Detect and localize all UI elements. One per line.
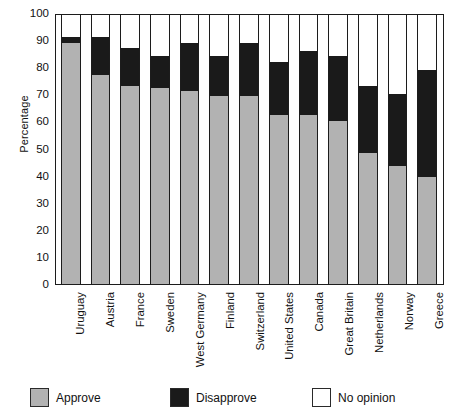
chart-legend: ApproveDisapproveNo opinion — [0, 388, 452, 416]
segment-no-opinion — [121, 16, 139, 48]
y-tick-70: 70 — [16, 89, 49, 100]
x-label-finland: Finland — [225, 292, 236, 329]
bar-switzerland — [239, 15, 259, 284]
y-tick-80: 80 — [16, 62, 49, 73]
segment-disapprove — [151, 56, 169, 88]
segment-approve — [210, 96, 228, 284]
segment-approve — [270, 115, 288, 284]
x-label-canada: Canada — [314, 292, 325, 332]
segment-approve — [151, 88, 169, 284]
x-label-norway: Norway — [404, 292, 415, 330]
segment-approve — [418, 177, 436, 284]
segment-disapprove — [359, 86, 377, 153]
bar-finland — [209, 15, 229, 284]
bar-norway — [388, 15, 408, 284]
segment-approve — [62, 43, 80, 284]
y-tick-20: 20 — [16, 225, 49, 236]
x-axis-category-labels: UruguayAustriaFranceSwedenWest GermanyFi… — [55, 286, 444, 390]
bar-sweden — [150, 15, 170, 284]
segment-no-opinion — [329, 16, 347, 56]
legend-item-approve: Approve — [30, 388, 101, 407]
bar-greece — [417, 15, 437, 284]
x-label-sweden: Sweden — [165, 292, 176, 333]
segment-no-opinion — [300, 16, 318, 51]
segment-approve — [300, 115, 318, 284]
bar-austria — [91, 15, 111, 284]
segment-no-opinion — [151, 16, 169, 56]
segment-no-opinion — [418, 16, 436, 70]
bar-france — [120, 15, 140, 284]
segment-disapprove — [181, 43, 199, 91]
y-tick-60: 60 — [16, 116, 49, 127]
y-tick-0: 0 — [16, 279, 49, 290]
legend-label-disapprove: Disapprove — [196, 392, 257, 404]
bar-united-states — [269, 15, 289, 284]
segment-no-opinion — [270, 16, 288, 62]
legend-item-disapprove: Disapprove — [170, 388, 257, 407]
segment-no-opinion — [210, 16, 228, 56]
x-label-netherlands: Netherlands — [374, 292, 385, 353]
x-label-greece: Greece — [434, 292, 445, 329]
segment-disapprove — [121, 48, 139, 86]
segment-disapprove — [62, 37, 80, 42]
bar-uruguay — [61, 15, 81, 284]
segment-approve — [240, 96, 258, 284]
segment-disapprove — [389, 94, 407, 166]
bar-canada — [299, 15, 319, 284]
x-label-west-germany: West Germany — [195, 292, 206, 367]
segment-no-opinion — [389, 16, 407, 94]
segment-no-opinion — [62, 16, 80, 37]
segment-approve — [329, 121, 347, 284]
x-label-uruguay: Uruguay — [75, 292, 86, 335]
stacked-bar-chart: Percentage 1009080706050403020100 Urugua… — [0, 0, 452, 419]
segment-no-opinion — [359, 16, 377, 86]
y-tick-30: 30 — [16, 198, 49, 209]
legend-label-approve: Approve — [56, 392, 101, 404]
x-label-switzerland: Switzerland — [255, 292, 266, 350]
no-opinion-swatch — [312, 388, 331, 407]
y-tick-90: 90 — [16, 35, 49, 46]
plot-area — [55, 14, 444, 285]
segment-approve — [359, 153, 377, 284]
y-tick-40: 40 — [16, 171, 49, 182]
disapprove-swatch — [170, 388, 189, 407]
bar-great-britain — [328, 15, 348, 284]
segment-disapprove — [240, 43, 258, 97]
bar-west-germany — [180, 15, 200, 284]
x-label-france: France — [135, 292, 146, 327]
segment-disapprove — [210, 56, 228, 96]
segment-disapprove — [92, 37, 110, 75]
segment-disapprove — [329, 56, 347, 120]
legend-item-no-opinion: No opinion — [312, 388, 395, 407]
segment-approve — [181, 91, 199, 284]
bar-netherlands — [358, 15, 378, 284]
segment-approve — [121, 86, 139, 284]
y-tick-10: 10 — [16, 252, 49, 263]
segment-disapprove — [418, 70, 436, 177]
segment-approve — [92, 75, 110, 284]
y-axis-tick-labels: 1009080706050403020100 — [16, 0, 49, 300]
approve-swatch — [30, 388, 49, 407]
y-tick-100: 100 — [16, 8, 49, 19]
segment-disapprove — [300, 51, 318, 115]
x-label-austria: Austria — [105, 292, 116, 327]
segment-disapprove — [270, 62, 288, 116]
segment-no-opinion — [181, 16, 199, 43]
x-label-great-britain: Great Britain — [344, 292, 355, 355]
bars-layer — [56, 15, 443, 284]
y-tick-50: 50 — [16, 144, 49, 155]
legend-label-no-opinion: No opinion — [338, 392, 395, 404]
segment-approve — [389, 166, 407, 284]
x-label-united-states: United States — [284, 292, 295, 360]
segment-no-opinion — [92, 16, 110, 37]
segment-no-opinion — [240, 16, 258, 43]
